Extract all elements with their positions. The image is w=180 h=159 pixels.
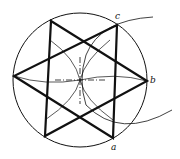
construction-arc-lower: [45, 80, 113, 120]
label-a: a: [111, 142, 116, 152]
label-c: c: [115, 11, 120, 21]
triangle-one: [45, 21, 147, 136]
hexagram-construction-diagram: c b a: [0, 0, 180, 159]
label-b: b: [150, 75, 156, 85]
